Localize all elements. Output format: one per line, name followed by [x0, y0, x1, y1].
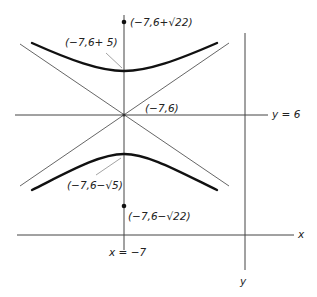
upper-focus-dot: [122, 20, 127, 25]
line-x-equals-neg7-label: x = −7: [108, 246, 146, 258]
x-axis-label: x: [297, 228, 305, 240]
upper-focus-label: (−7,6+√22): [130, 16, 193, 28]
y-axis-label: y: [239, 275, 247, 287]
lower-focus-label: (−7,6−√22): [128, 210, 191, 222]
center-label: (−7,6): [145, 102, 179, 114]
center-point: [122, 113, 125, 116]
lower-focus-dot: [122, 204, 127, 209]
line-y-equals-6-label: y = 6: [271, 108, 301, 120]
upper-vertex-leader: [106, 53, 122, 68]
lower-vertex-label: (−7,6−√5): [67, 179, 123, 191]
hyperbola-diagram: x y y = 6 x = −7 (−7,6) (−7,6+√22) (−7,6…: [0, 0, 317, 297]
lower-vertex-leader: [96, 158, 121, 175]
upper-vertex-label: (−7,6+ 5): [65, 36, 118, 48]
